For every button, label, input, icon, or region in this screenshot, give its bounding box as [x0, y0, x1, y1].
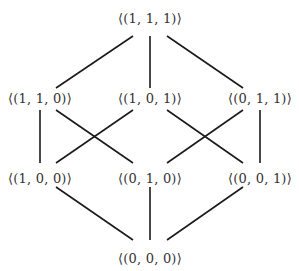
node-000: ⟨(0, 0, 0)⟩ — [118, 252, 182, 265]
node-100: ⟨(1, 0, 0)⟩ — [8, 172, 72, 185]
node-001: ⟨(0, 0, 1)⟩ — [228, 172, 292, 185]
node-111: ⟨(1, 1, 1)⟩ — [118, 12, 182, 25]
edge-n111-n110 — [56, 36, 133, 88]
node-110: ⟨(1, 1, 0)⟩ — [8, 92, 72, 105]
hasse-diagram: ⟨(1, 1, 1)⟩ ⟨(1, 1, 0)⟩ ⟨(1, 0, 1)⟩ ⟨(0,… — [0, 0, 299, 271]
node-010: ⟨(0, 1, 0)⟩ — [118, 172, 182, 185]
edge-layer — [0, 0, 299, 271]
edge-n111-n011 — [167, 36, 243, 88]
edge-n001-n000 — [167, 187, 243, 240]
edge-n100-n000 — [56, 187, 133, 240]
node-011: ⟨(0, 1, 1)⟩ — [228, 92, 292, 105]
node-101: ⟨(1, 0, 1)⟩ — [118, 92, 182, 105]
